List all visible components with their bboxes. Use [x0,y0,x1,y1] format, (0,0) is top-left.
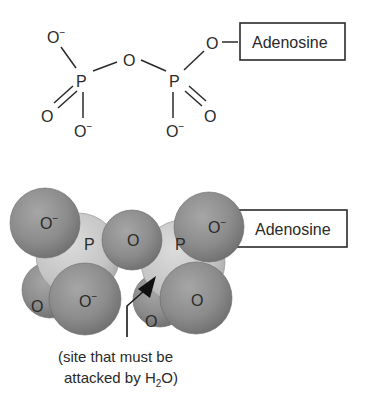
atom-o-ester: O [206,35,218,52]
bond-o-p-left [61,47,76,68]
structural-atoms: O− P O P O O O− O− O Adenosine [41,27,328,140]
atom-p-right: P [169,73,180,90]
atom-o-minus-right: O− [166,121,184,140]
model-atom-o-bridge: O [127,232,139,249]
model-atom-o-bottom-left: O [31,298,43,315]
model-adenosine-label: Adenosine [255,221,331,238]
model-atom-o-bottom-mid: O [145,313,157,330]
atom-o-minus-left: O− [74,121,92,140]
atom-o-double-left: O [41,108,53,125]
double-bond-left-a [54,86,73,103]
pyrophosphate-diagram: O− P O P O O O− O− O Adenosine O− P O P … [0,0,369,394]
adenosine-label: Adenosine [252,34,328,51]
atom-p-left: P [76,73,87,90]
caption-line-2: attacked by H2O) [64,369,178,389]
model-atom-p-left: P [84,236,95,253]
bond-p-o-ester [184,51,204,70]
atom-o-top-left: O− [47,27,65,46]
atom-o-bridge: O [123,52,135,69]
bond-o-bridge-p [141,60,166,71]
bond-p-o-bridge [93,62,117,71]
space-filling-model: O− P O P O− O O− O O Adenosine (site tha… [10,188,347,389]
model-atom-o-bottom-right: O [191,292,203,309]
caption-line-1: (site that must be [58,348,173,365]
double-bond-right-a [189,86,206,101]
model-atom-p-right: P [175,236,186,253]
atom-o-double-right: O [204,108,216,125]
double-bond-left-b [58,91,77,108]
double-bond-right-b [185,91,202,106]
